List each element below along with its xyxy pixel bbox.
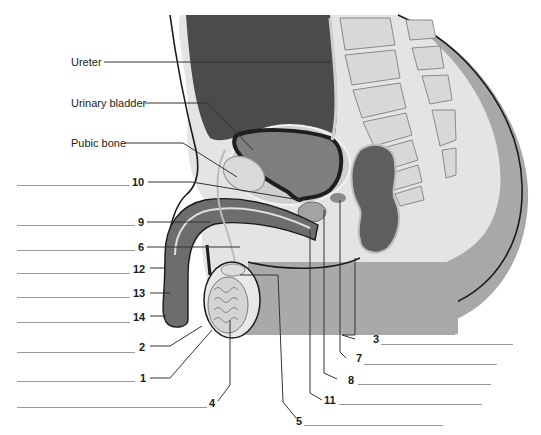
number-11: 11	[324, 394, 336, 406]
answer-line-10[interactable]	[17, 185, 130, 186]
number-12: 12	[133, 263, 145, 275]
number-2: 2	[139, 341, 145, 353]
answer-line-3[interactable]	[381, 344, 513, 345]
number-4: 4	[209, 397, 215, 409]
testis	[208, 277, 248, 333]
number-3: 3	[373, 333, 379, 345]
answer-line-9[interactable]	[17, 225, 135, 226]
seminal-vesicle	[330, 193, 346, 203]
number-13: 13	[133, 287, 145, 299]
epididymis	[221, 264, 245, 276]
label-urinary-bladder: Urinary bladder	[71, 97, 146, 109]
answer-line-14[interactable]	[17, 322, 130, 323]
number-10: 10	[132, 176, 144, 188]
number-7: 7	[356, 352, 362, 364]
label-ureter: Ureter	[71, 56, 102, 68]
answer-line-11[interactable]	[339, 404, 482, 405]
answer-line-12[interactable]	[17, 273, 130, 274]
number-6: 6	[138, 241, 144, 253]
answer-line-6[interactable]	[17, 250, 135, 251]
answer-line-4[interactable]	[17, 407, 207, 408]
answer-line-2[interactable]	[17, 352, 135, 353]
answer-line-1[interactable]	[17, 381, 135, 382]
abdominal-cavity	[186, 15, 337, 140]
number-1: 1	[140, 372, 146, 384]
answer-line-13[interactable]	[17, 297, 130, 298]
answer-line-8[interactable]	[358, 384, 491, 385]
label-pubic-bone: Pubic bone	[71, 137, 126, 149]
answer-line-5[interactable]	[304, 425, 443, 426]
rectum	[352, 145, 400, 253]
number-5: 5	[296, 415, 302, 427]
number-8: 8	[348, 374, 354, 386]
answer-line-7[interactable]	[364, 364, 497, 365]
number-14: 14	[133, 311, 145, 323]
number-9: 9	[138, 216, 144, 228]
